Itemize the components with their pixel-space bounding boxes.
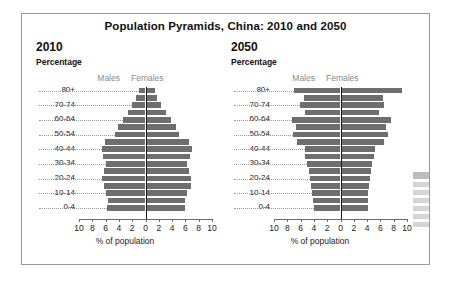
x-axis-tick-label: 0 xyxy=(338,223,343,233)
x-axis-title-2010: % of population xyxy=(32,236,218,246)
x-axis-tick-label: 2 xyxy=(156,223,161,233)
pyramid-row: 80+ xyxy=(32,87,218,94)
x-axis-tick xyxy=(92,219,93,222)
bar-female xyxy=(146,132,179,138)
bar-female xyxy=(146,117,172,123)
pyramid-row: 70-74 xyxy=(227,102,413,109)
age-group-label: 10-14 xyxy=(35,188,75,197)
x-axis-tick xyxy=(341,219,342,222)
leader-line xyxy=(234,179,310,180)
bar-female xyxy=(341,198,368,204)
bar-female xyxy=(146,124,177,130)
bar-male xyxy=(309,168,341,174)
age-group-label: 70-74 xyxy=(230,100,270,109)
bar-male xyxy=(102,146,146,152)
bar-female xyxy=(146,168,190,174)
bar-female xyxy=(146,146,193,152)
bar-male xyxy=(296,124,341,130)
leader-line xyxy=(39,91,139,92)
x-axis-tick xyxy=(79,219,80,222)
bar-female xyxy=(146,190,188,196)
pyramid-row: 20-24 xyxy=(32,175,218,182)
x-axis-tick-label: 2 xyxy=(325,223,330,233)
pyramid-row: 30-34 xyxy=(32,160,218,167)
bar-female xyxy=(146,183,191,189)
x-axis-tick-label: 4 xyxy=(312,223,317,233)
x-axis-tick xyxy=(185,219,186,222)
bar-female xyxy=(341,95,384,101)
x-axis-tick xyxy=(314,219,315,222)
bar-female xyxy=(341,154,375,160)
bar-male xyxy=(128,110,145,116)
x-axis-title-2050: % of population xyxy=(227,236,413,246)
x-axis-tick-label: 10 xyxy=(269,223,278,233)
x-axis-tick xyxy=(132,219,133,222)
bar-male xyxy=(118,124,146,130)
leader-line xyxy=(39,208,107,209)
x-axis-tick xyxy=(274,219,275,222)
age-group-label: 0-4 xyxy=(35,202,75,211)
bar-female xyxy=(341,183,370,189)
leader-line xyxy=(234,135,293,136)
leader-line xyxy=(39,120,123,121)
x-axis-tick-label: 8 xyxy=(285,223,290,233)
bar-male xyxy=(136,95,145,101)
pyramid-row: 50-54 xyxy=(227,131,413,138)
bar-female xyxy=(146,198,185,204)
panel-subtitle-2050: Percentage xyxy=(231,57,277,67)
cropped-side-note xyxy=(413,172,429,238)
pyramid-row: 10-14 xyxy=(227,190,413,197)
bar-male xyxy=(115,132,146,138)
bar-female xyxy=(341,117,392,123)
x-axis-tick-label: 2 xyxy=(351,223,356,233)
bar-male xyxy=(293,132,341,138)
leader-line xyxy=(39,164,106,165)
x-axis-tick-label: 6 xyxy=(298,223,303,233)
bar-female xyxy=(146,161,187,167)
pyramid-row: 30-34 xyxy=(227,160,413,167)
bar-female xyxy=(146,154,191,160)
age-group-label: 20-24 xyxy=(230,173,270,182)
bar-male xyxy=(102,176,145,182)
age-group-label: 30-34 xyxy=(35,158,75,167)
leader-line xyxy=(234,91,294,92)
legend-males-2010: Males xyxy=(97,73,120,83)
bar-male xyxy=(103,154,146,160)
x-axis-tick xyxy=(327,219,328,222)
pyramid-row: 70-74 xyxy=(32,102,218,109)
x-axis-tick-label: 4 xyxy=(117,223,122,233)
x-axis-tick-label: 10 xyxy=(74,223,83,233)
leader-line xyxy=(39,135,115,136)
center-axis-2050 xyxy=(341,87,342,219)
bar-male xyxy=(292,117,341,123)
bar-female xyxy=(341,110,380,116)
pyramid-row: 0-4 xyxy=(227,204,413,211)
leader-line xyxy=(234,208,314,209)
pyramid-row: 0-4 xyxy=(32,204,218,211)
x-axis-tick-label: 8 xyxy=(90,223,95,233)
x-axis-tick xyxy=(380,219,381,222)
pyramid-row: 80+ xyxy=(227,87,413,94)
page-title: Population Pyramids, China: 2010 and 205… xyxy=(22,20,429,32)
bar-female xyxy=(341,190,369,196)
plot-area-2050: Males Females 80+70-7460-6450-5440-4430-… xyxy=(227,73,413,233)
leader-line xyxy=(234,105,300,106)
age-group-label: 20-24 xyxy=(35,173,75,182)
leader-line xyxy=(234,120,292,121)
bar-male xyxy=(108,198,145,204)
bar-male xyxy=(305,146,341,152)
pyramid-row: 50-54 xyxy=(32,131,218,138)
x-axis-tick-label: 8 xyxy=(391,223,396,233)
bar-male xyxy=(139,88,146,94)
age-group-label: 80+ xyxy=(230,85,270,94)
x-axis-tick xyxy=(394,219,395,222)
x-axis-tick-label: 10 xyxy=(402,223,411,233)
age-group-label: 50-54 xyxy=(230,129,270,138)
panel-subtitle-2010: Percentage xyxy=(36,57,82,67)
bar-male xyxy=(311,183,340,189)
bar-male xyxy=(310,176,341,182)
leader-line xyxy=(234,149,305,150)
bar-male xyxy=(297,139,341,145)
bar-female xyxy=(146,110,167,116)
bar-male xyxy=(104,168,145,174)
